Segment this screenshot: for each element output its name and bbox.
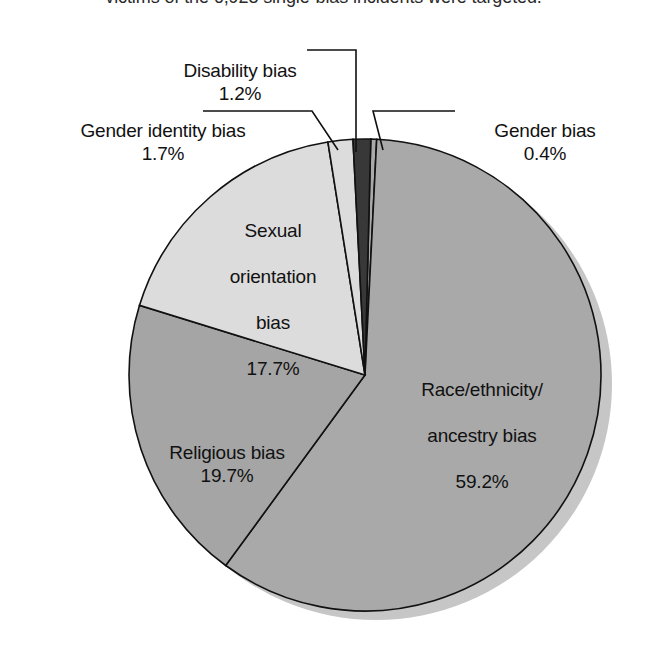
label-gender-identity-bias-percent: 1.7% (18, 142, 308, 165)
label-gender-bias-percent: 0.4% (455, 142, 635, 165)
label-race-ethnicity-ancestry-bias: Race/ethnicity/ ancestry bias 59.2% (392, 355, 572, 516)
label-religious-bias-percent: 19.7% (132, 464, 322, 487)
label-religious-bias: Religious bias 19.7% (132, 418, 322, 510)
label-gender-bias-name: Gender bias (494, 120, 595, 141)
chart-figure: victims of the 6,928 single-bias inciden… (0, 0, 647, 655)
label-sexual-orientation-bias: Sexual orientation bias 17.7% (208, 196, 338, 403)
label-disability-bias-name: Disability bias (183, 60, 296, 81)
label-gender-identity-bias-name: Gender identity bias (81, 120, 246, 141)
label-gender-bias: Gender bias 0.4% (455, 96, 635, 188)
label-sexual-orientation-bias-name-l1: Sexual (208, 219, 338, 242)
label-sexual-orientation-bias-name-l3: bias (208, 311, 338, 334)
label-race-bias-percent: 59.2% (392, 470, 572, 493)
label-race-bias-name-l1: Race/ethnicity/ (392, 378, 572, 401)
label-religious-bias-name: Religious bias (169, 442, 285, 463)
label-sexual-orientation-bias-name-l2: orientation (208, 265, 338, 288)
label-sexual-orientation-bias-percent: 17.7% (208, 357, 338, 380)
label-race-bias-name-l2: ancestry bias (392, 424, 572, 447)
label-gender-identity-bias: Gender identity bias 1.7% (18, 96, 308, 188)
